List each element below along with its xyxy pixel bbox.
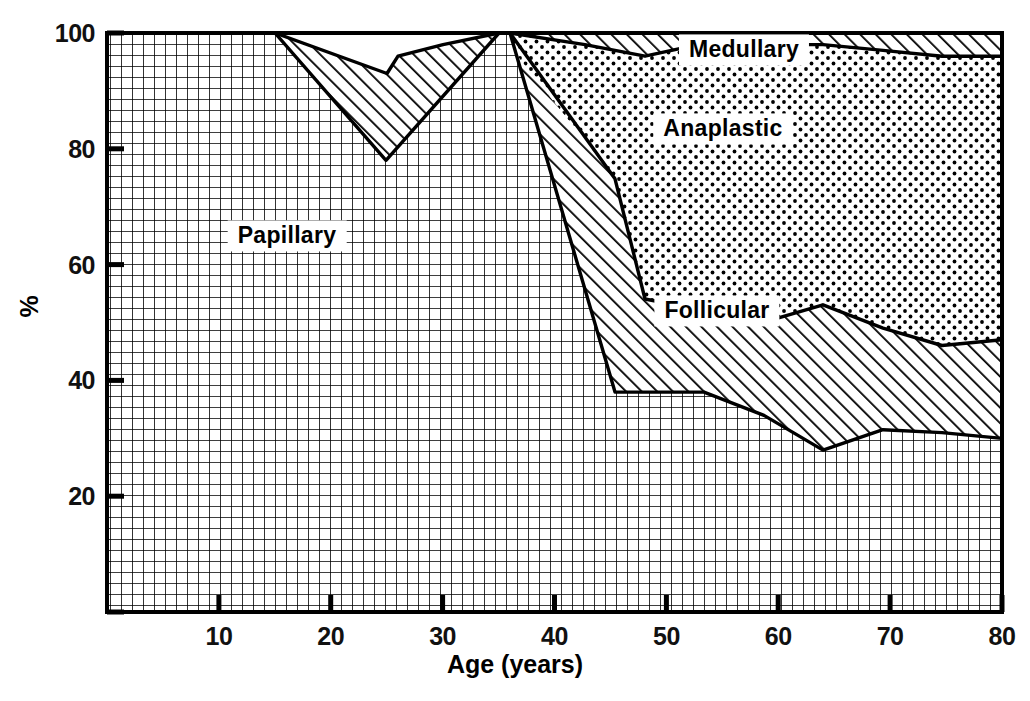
x-tick-label-70: 70 (877, 622, 904, 651)
x-tick-label-10: 10 (205, 622, 232, 651)
y-tick-label-40: 40 (25, 366, 95, 395)
figure-root: 100 80 60 40 20 % 10 20 30 40 50 60 70 8… (0, 0, 1030, 701)
y-tick-label-20: 20 (25, 482, 95, 511)
x-tick-label-80: 80 (989, 622, 1016, 651)
x-tick-label-40: 40 (541, 622, 568, 651)
x-tick-label-50: 50 (653, 622, 680, 651)
area-regions (107, 33, 1002, 612)
region-label-follicular: Follicular (654, 295, 779, 326)
x-axis-label: Age (years) (0, 650, 1030, 679)
region-label-medullary: Medullary (679, 34, 809, 65)
y-axis-label: % (15, 295, 44, 317)
y-tick-label-100: 100 (25, 19, 95, 48)
x-tick-label-20: 20 (317, 622, 344, 651)
region-label-anaplastic: Anaplastic (653, 113, 792, 144)
region-label-papillary: Papillary (228, 220, 347, 251)
x-tick-label-30: 30 (429, 622, 456, 651)
x-tick-label-60: 60 (765, 622, 792, 651)
y-tick-label-60: 60 (25, 250, 95, 279)
stacked-area-chart (0, 0, 1030, 701)
y-tick-label-80: 80 (25, 134, 95, 163)
